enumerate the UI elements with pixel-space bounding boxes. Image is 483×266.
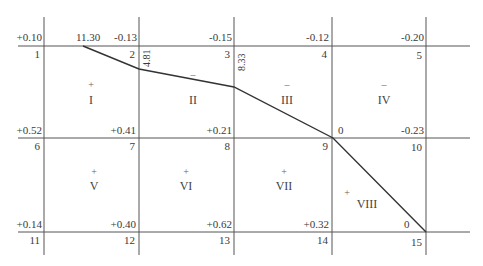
node-4-value: -0.12 bbox=[276, 32, 329, 43]
node-12-label: 12 bbox=[95, 235, 135, 246]
node-7-label: 7 bbox=[95, 141, 135, 152]
node-9-value: 0 bbox=[338, 125, 344, 136]
node-15-label: 15 bbox=[382, 237, 422, 248]
node-10-label: 10 bbox=[382, 142, 422, 153]
node-2-label: 2 bbox=[95, 49, 135, 60]
node-13-value: +0.62 bbox=[176, 219, 232, 230]
node-7-value: +0.41 bbox=[80, 125, 136, 136]
region-VIII-numeral: VIII bbox=[355, 198, 379, 210]
node-11-label: 11 bbox=[0, 235, 40, 246]
node-14-value: +0.32 bbox=[272, 219, 329, 230]
region-IV-sign: – bbox=[372, 80, 396, 90]
edge-label-8-33: 8.33 bbox=[237, 54, 247, 72]
region-VIII-sign: + bbox=[335, 188, 359, 198]
edge-label-4-81: 4.81 bbox=[142, 50, 152, 68]
node-8-value: +0.21 bbox=[176, 125, 232, 136]
region-VI-sign: + bbox=[174, 167, 198, 177]
region-III-numeral: III bbox=[275, 94, 299, 106]
node-10-value: -0.23 bbox=[370, 125, 424, 136]
node-2-value: -0.13 bbox=[95, 32, 137, 43]
node-5-value: -0.20 bbox=[372, 32, 424, 43]
region-VI-numeral: VI bbox=[174, 180, 198, 192]
node-12-value: +0.40 bbox=[80, 219, 136, 230]
node-15-value: 0 bbox=[404, 219, 410, 230]
node-6-value: +0.52 bbox=[0, 125, 42, 136]
region-III-sign: – bbox=[275, 80, 299, 90]
node-4-label: 4 bbox=[287, 49, 327, 60]
node-1-label: 1 bbox=[0, 49, 40, 60]
node-14-label: 14 bbox=[288, 235, 328, 246]
region-IV-numeral: IV bbox=[372, 94, 396, 106]
region-V-sign: + bbox=[82, 167, 106, 177]
node-3-label: 3 bbox=[190, 49, 230, 60]
region-II-numeral: II bbox=[181, 94, 205, 106]
region-II-sign: – bbox=[181, 70, 205, 80]
node-8-label: 8 bbox=[190, 141, 230, 152]
region-I-numeral: I bbox=[79, 94, 103, 106]
region-VII-sign: + bbox=[272, 167, 296, 177]
node-5-label: 5 bbox=[382, 50, 422, 61]
node-1-value: +0.10 bbox=[0, 32, 42, 43]
node-6-label: 6 bbox=[0, 141, 40, 152]
node-13-label: 13 bbox=[190, 235, 230, 246]
node-9-label: 9 bbox=[288, 141, 328, 152]
region-I-sign: + bbox=[79, 80, 103, 90]
node-3-value: -0.15 bbox=[180, 32, 232, 43]
region-VII-numeral: VII bbox=[272, 180, 296, 192]
region-V-numeral: V bbox=[82, 180, 106, 192]
node-11-value: +0.14 bbox=[0, 219, 42, 230]
